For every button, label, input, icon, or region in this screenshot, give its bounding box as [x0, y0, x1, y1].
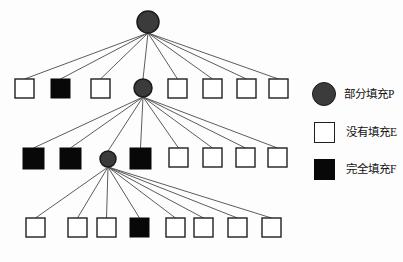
tree-node-empty — [203, 79, 222, 98]
tree-node-full — [51, 79, 70, 98]
tree-node-empty — [169, 148, 188, 167]
legend-item-partial: 部分填充P — [312, 82, 394, 106]
tree-edge — [143, 97, 179, 148]
tree-node-empty — [166, 218, 185, 237]
tree-node-full — [130, 218, 149, 237]
legend: 部分填充P 没有填充E 完全填充F — [312, 80, 403, 190]
tree-diagram-figure: 部分填充P 没有填充E 完全填充F — [0, 0, 403, 262]
tree-node-empty — [269, 79, 288, 98]
legend-label-empty: 没有填充E — [346, 126, 397, 139]
tree-node-partial — [137, 11, 159, 33]
tree-edge — [101, 33, 149, 79]
tree-node-empty — [168, 79, 187, 98]
legend-label-partial: 部分填充P — [344, 88, 394, 101]
tree-edge — [107, 167, 109, 218]
full-fill-square-icon — [314, 159, 335, 180]
legend-item-full: 完全填充F — [312, 157, 396, 181]
tree-node-full — [130, 148, 151, 169]
tree-edge — [143, 97, 278, 148]
tree-edge — [141, 97, 144, 148]
tree-edge — [148, 33, 213, 79]
tree-node-empty — [203, 148, 222, 167]
tree-edge — [143, 33, 148, 79]
tree-node-empty — [194, 218, 213, 237]
tree-node-empty — [97, 218, 116, 237]
tree-edge — [61, 33, 149, 79]
partial-fill-circle-icon — [312, 82, 336, 106]
tree-edge — [78, 167, 109, 218]
tree-node-empty — [91, 79, 110, 98]
legend-label-full: 完全填充F — [346, 163, 396, 176]
tree-edge — [36, 167, 109, 218]
tree-node-empty — [26, 218, 45, 237]
tree-edge — [71, 97, 144, 148]
edge-layer — [25, 33, 279, 218]
tree-edge — [143, 97, 213, 148]
tree-node-empty — [228, 218, 247, 237]
empty-fill-square-icon — [314, 122, 335, 143]
tree-node-partial — [100, 151, 116, 167]
tree-node-full — [23, 148, 44, 169]
tree-edge — [108, 167, 238, 218]
tree-node-empty — [262, 218, 281, 237]
tree-edge — [143, 97, 246, 148]
tree-node-empty — [268, 148, 287, 167]
tree-node-empty — [237, 79, 256, 98]
tree-edge — [108, 167, 140, 218]
tree-edge — [108, 167, 176, 218]
tree-edge — [148, 33, 279, 79]
tree-node-empty — [15, 79, 34, 98]
tree-edge — [25, 33, 149, 79]
tree-node-partial — [134, 79, 152, 97]
tree-node-full — [60, 148, 81, 169]
tree-node-empty — [68, 218, 87, 237]
tree-node-empty — [236, 148, 255, 167]
legend-item-empty: 没有填充E — [312, 120, 397, 144]
